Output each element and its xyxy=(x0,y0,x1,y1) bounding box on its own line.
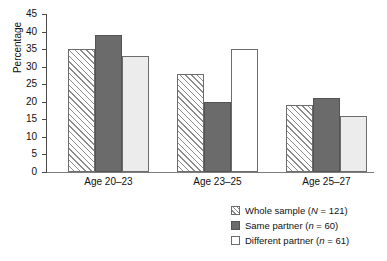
bar xyxy=(122,56,149,172)
legend-item: Different partner (n = 61) xyxy=(231,233,381,248)
y-tick-label: 35 xyxy=(26,44,37,54)
y-tick-label: 25 xyxy=(26,79,37,89)
y-tick-label: 10 xyxy=(26,132,37,142)
y-tick-label: 30 xyxy=(26,62,37,72)
y-tick-label: 0 xyxy=(31,167,37,177)
y-tick-label: 15 xyxy=(26,114,37,124)
dark-gray-swatch xyxy=(231,221,240,230)
bar-group xyxy=(286,14,367,172)
bar xyxy=(177,74,204,172)
y-tick-label: 5 xyxy=(31,149,37,159)
bar-chart-figure: Percentage 051015202530354045 Age 20–23A… xyxy=(0,0,387,261)
legend-item: Same partner (n = 60) xyxy=(231,218,381,233)
y-axis-title: Percentage xyxy=(12,0,23,103)
legend-label: Different partner (n = 61) xyxy=(245,235,349,246)
bar xyxy=(68,49,95,172)
y-tick-label: 45 xyxy=(26,9,37,19)
legend-label: Same partner (n = 60) xyxy=(245,220,338,231)
bar-groups xyxy=(46,14,375,172)
bar xyxy=(204,102,231,172)
chart-legend: Whole sample (N = 121)Same partner (n = … xyxy=(231,203,381,248)
bar xyxy=(340,116,367,172)
x-axis-label: Age 20–23 xyxy=(68,176,149,188)
y-tick-mark xyxy=(42,172,47,173)
x-axis-line xyxy=(46,172,374,173)
bar xyxy=(95,35,122,172)
bar-group xyxy=(177,14,258,172)
y-tick-label: 20 xyxy=(26,97,37,107)
legend-label: Whole sample (N = 121) xyxy=(245,205,348,216)
white-swatch xyxy=(231,236,240,245)
bar xyxy=(231,49,258,172)
x-axis-label: Age 25–27 xyxy=(286,176,367,188)
y-tick-label: 40 xyxy=(26,27,37,37)
bar-group xyxy=(68,14,149,172)
hatched-swatch xyxy=(231,206,240,215)
legend-item: Whole sample (N = 121) xyxy=(231,203,381,218)
x-axis-label: Age 23–25 xyxy=(177,176,258,188)
bar xyxy=(313,98,340,172)
bar xyxy=(286,105,313,172)
